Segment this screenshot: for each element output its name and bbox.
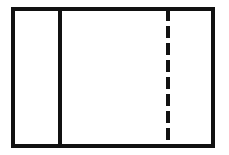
region-left-panel xyxy=(15,11,60,144)
region-center-panel xyxy=(62,11,168,144)
partitioned-rectangle-diagram xyxy=(0,0,229,155)
region-right-panel xyxy=(170,11,213,144)
figure-canvas xyxy=(0,0,229,155)
